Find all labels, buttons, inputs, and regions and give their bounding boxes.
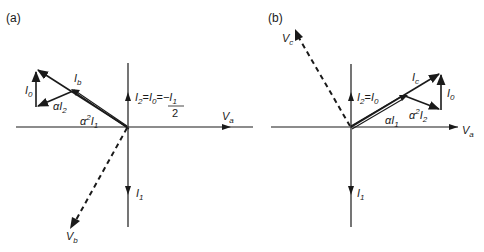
a2i2-phasor <box>405 96 439 109</box>
vb-phasor <box>76 128 127 220</box>
panel-a-label: (a) <box>6 11 21 25</box>
fraction-denominator: 2 <box>172 107 178 119</box>
va-label-a: Va <box>222 110 234 125</box>
i2-up-arrow-icon <box>125 92 131 101</box>
panel-a: (a) Va I2=I0=−I1 2 I1 Vb α2I1 Ib αI2 I0 <box>6 11 253 245</box>
i0-label-a: I0 <box>25 84 33 99</box>
i1-label-b: I1 <box>357 187 365 202</box>
i1-down-arrow-icon-b <box>348 186 354 195</box>
panel-b: (b) Va I2=I0 I1 Vc αI1 Ic α2I2 I0 <box>268 11 474 227</box>
phasor-diagram: (a) Va I2=I0=−I1 2 I1 Vb α2I1 Ib αI2 I0 <box>0 0 484 252</box>
va-label-b: Va <box>462 124 474 139</box>
vc-label: Vc <box>282 32 293 47</box>
ib-label: Ib <box>74 72 82 87</box>
panel-b-label: (b) <box>268 11 283 25</box>
ai2-label: αI2 <box>53 100 67 115</box>
i2-eq-label-a: I2=I0=−I1 <box>135 91 177 106</box>
i2-up-arrow-icon-b <box>348 92 354 101</box>
vb-label: Vb <box>66 230 78 245</box>
i1-down-arrow-icon <box>125 186 131 195</box>
i0-label-b: I0 <box>447 87 455 102</box>
a2i2-label: α2I2 <box>409 107 428 124</box>
va-arrow-icon-b <box>449 124 458 130</box>
ic-label: Ic <box>412 71 419 86</box>
vb-arrow-icon <box>70 217 80 229</box>
vc-phasor <box>299 38 350 126</box>
i2-eq-label-b: I2=I0 <box>357 91 379 106</box>
i1-label-a: I1 <box>136 187 144 202</box>
